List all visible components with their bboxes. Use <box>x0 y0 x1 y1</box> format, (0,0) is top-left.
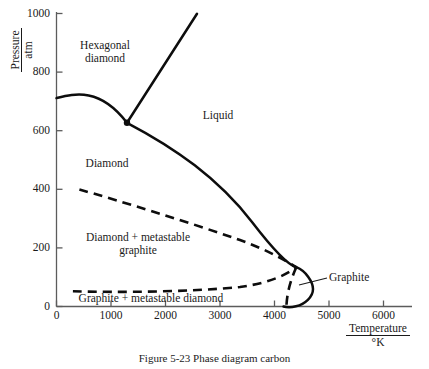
curve-diamond-graphite-upper-left <box>57 95 128 123</box>
x-axis-title-denominator: °K <box>346 335 410 349</box>
x-axis-title-numerator: Temperature <box>346 322 410 335</box>
y-tick-label-400: 400 <box>0 182 50 195</box>
region-hexagonal-diamond-line2: diamond <box>85 52 125 64</box>
x-tick-label-5000: 5000 <box>304 309 354 322</box>
region-label-diamond: Diamond <box>62 157 152 170</box>
x-tick-label-6000: 6000 <box>359 309 409 322</box>
region-label-graphite-metastable-diamond: Graphite + metastable diamond <box>56 292 246 305</box>
x-tick-label-3000: 3000 <box>195 309 245 322</box>
x-tick-label-1000: 1000 <box>86 309 136 322</box>
region-label-hexagonal-diamond: Hexagonal diamond <box>60 39 150 65</box>
region-dmg-line2: graphite <box>119 244 157 256</box>
y-tick-label-200: 200 <box>0 241 50 254</box>
curve-metastable-diamond-lower <box>73 267 296 292</box>
x-tick-label-4000: 4000 <box>250 309 300 322</box>
region-label-diamond-metastable-graphite: Diamond + metastable graphite <box>58 231 218 257</box>
figure-caption: Figure 5-23 Phase diagram carbon <box>0 352 429 364</box>
phase-diagram: Pressure atm Temperature °K 0 200 400 60… <box>0 0 429 369</box>
x-tick-label-0: 0 <box>32 309 82 322</box>
curve-diamond-hexdiamond <box>127 14 197 123</box>
y-tick-label-800: 800 <box>0 65 50 78</box>
region-hexagonal-diamond-line1: Hexagonal <box>80 39 130 51</box>
y-tick-label-600: 600 <box>0 124 50 137</box>
y-tick-label-1000: 1000 <box>0 7 50 20</box>
region-label-liquid: Liquid <box>173 109 263 122</box>
x-tick-label-2000: 2000 <box>141 309 191 322</box>
x-axis-title: Temperature °K <box>330 322 426 349</box>
region-dmg-line1: Diamond + metastable <box>86 231 190 243</box>
triple-point-marker <box>124 120 130 126</box>
region-label-graphite: Graphite <box>329 271 399 284</box>
